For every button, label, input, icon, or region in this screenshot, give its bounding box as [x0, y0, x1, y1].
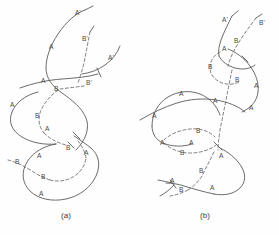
end-tick-a-2: [90, 26, 94, 32]
vertex-label: B: [66, 144, 71, 151]
vertex-label: A: [152, 112, 157, 119]
curve-a-dashed-6: [50, 158, 86, 181]
vertex-label: A: [160, 139, 165, 146]
vertex-label: A: [179, 90, 184, 97]
curve-a-dashed-2: [60, 86, 84, 89]
end-tick-b-1: [232, 11, 238, 16]
vertex-label: A: [49, 43, 54, 50]
vertex-label: B: [199, 167, 204, 174]
vertex-label: A: [10, 101, 15, 108]
vertex-label: B': [86, 79, 92, 86]
panel-caption-b: (b): [200, 211, 210, 220]
crossing-tick-a-1: [97, 68, 101, 77]
vertex-label: B: [35, 112, 40, 119]
vertex-label: A: [45, 125, 50, 132]
panel-caption-a: (a): [61, 211, 71, 220]
vertex-label: A: [189, 139, 194, 146]
vertex-label: B: [180, 149, 185, 156]
panel-b-graphics: A' B' B A B A B A A A A B A A B A B B A …: [140, 11, 265, 220]
vertex-label: A: [210, 184, 215, 191]
vertex-label: B': [259, 19, 265, 26]
vertex-label: A': [108, 54, 114, 61]
vertex-label: A: [219, 152, 224, 159]
curve-b-solid-2: [219, 56, 255, 69]
vertex-label: B: [15, 158, 20, 165]
curve-b-solid-6: [152, 126, 192, 146]
vertex-label: A: [37, 152, 42, 159]
knot-diagram-figure: A' B' A A' A B B' A B A B A A B B A (a): [0, 0, 279, 235]
vertex-label: B: [196, 127, 201, 134]
vertex-label: A': [222, 16, 228, 23]
vertex-label: B: [234, 37, 239, 44]
curve-a-dashed-4: [44, 133, 66, 145]
vertex-label: A: [39, 190, 44, 197]
curve-a-solid-4: [10, 92, 56, 144]
curve-a-solid-6: [74, 136, 91, 148]
curve-a-solid-2: [82, 46, 120, 74]
crossing-tick-b-1: [242, 56, 248, 62]
end-tick-b-2: [256, 14, 262, 18]
vertex-label: A: [254, 82, 259, 89]
curve-b-solid-10: [160, 185, 174, 196]
curve-b-solid-3: [228, 49, 258, 112]
panel-b-labels: A' B' B A B A B A A A A B A A B A B B A …: [152, 16, 265, 193]
vertex-label: A: [222, 45, 227, 52]
vertex-label: A: [41, 77, 46, 84]
vertex-label: A': [75, 9, 81, 16]
vertex-label: A: [170, 177, 175, 184]
vertex-label: B: [235, 76, 240, 83]
vertex-label: B: [179, 186, 184, 193]
curve-b-dashed-1: [228, 18, 256, 66]
vertex-label: B: [208, 63, 213, 70]
vertex-label: A: [249, 104, 254, 111]
panel-a-graphics: A' B' A A' A B B' A B A B A A B B A (a): [8, 6, 120, 220]
vertex-label: B: [41, 173, 46, 180]
end-tick-a-1: [85, 6, 93, 10]
figure-canvas: A' B' A A' A B B' A B A B A A B B A (a): [0, 0, 279, 235]
vertex-label: A: [213, 97, 218, 104]
vertex-label: B': [82, 35, 88, 42]
vertex-label: A: [84, 149, 89, 156]
vertex-label: B: [54, 85, 59, 92]
